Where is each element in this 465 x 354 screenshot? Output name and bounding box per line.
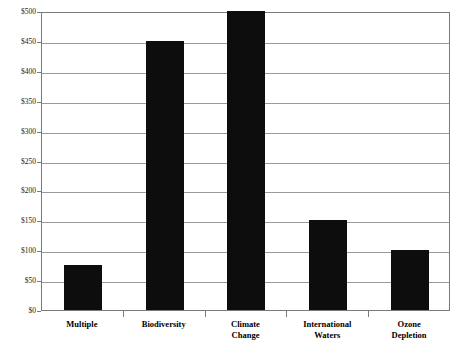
bar-chart: $0$50$100$150$200$250$300$350$400$450$50… [0,0,465,354]
x-axis-category-label-line: Change [205,330,287,341]
x-axis-tick-mark [286,311,287,317]
x-axis-category-label-line: Climate [205,319,287,330]
bar-slot [287,13,369,310]
x-axis: MultipleBiodiversityClimateChangeInterna… [41,319,450,353]
x-axis-category-label: Biodiversity [123,319,205,330]
bar-slot [369,13,451,310]
x-axis-tick-mark [368,311,369,317]
bar-slot [42,13,124,310]
x-axis-category-label-line: Biodiversity [123,319,205,330]
y-axis-tick-label: $500 [0,8,36,16]
x-axis-category-label: InternationalWaters [286,319,368,341]
y-axis-tick-label: $450 [0,38,36,46]
y-axis-tick-label: $0 [0,307,36,315]
y-axis-tick-label: $400 [0,68,36,76]
y-axis-tick-label: $100 [0,247,36,255]
bar[interactable] [309,220,347,310]
y-axis-tick-label: $50 [0,277,36,285]
bar[interactable] [227,11,265,310]
x-axis-category-label-line: International [286,319,368,330]
x-axis-tick-mark [205,311,206,317]
bar[interactable] [146,41,184,310]
x-axis-category-label: ClimateChange [205,319,287,341]
y-axis: $0$50$100$150$200$250$300$350$400$450$50… [0,12,36,311]
bar-slot [206,13,288,310]
bar[interactable] [391,250,429,310]
y-axis-tick-label: $200 [0,187,36,195]
y-axis-tick-label: $300 [0,128,36,136]
x-axis-category-label-line: Waters [286,330,368,341]
y-axis-tick-label: $150 [0,217,36,225]
y-axis-tick-label: $250 [0,158,36,166]
x-axis-category-label-line: Ozone [368,319,450,330]
bars-group [42,13,449,310]
y-axis-tick-label: $350 [0,98,36,106]
plot-area [41,12,450,311]
x-axis-tick-mark [123,311,124,317]
x-axis-category-label-line: Depletion [368,330,450,341]
y-axis-tick-mark [37,311,41,312]
x-axis-category-label: Multiple [41,319,123,330]
x-axis-category-label: OzoneDepletion [368,319,450,341]
bar-slot [124,13,206,310]
bar[interactable] [64,265,102,310]
x-axis-category-label-line: Multiple [41,319,123,330]
